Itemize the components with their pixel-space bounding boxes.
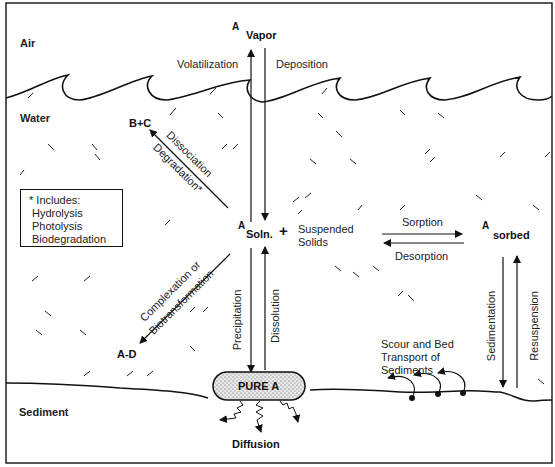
pure-a-label: PURE A [238,380,279,392]
note-title: * Includes: [29,194,122,207]
diffusion-label: Diffusion [232,438,280,450]
vapor-a-label: A [232,21,239,33]
precipitation-label: Precipitation [231,290,243,351]
suspended-solids-line2: Solids [298,236,328,248]
zone-label-sediment: Sediment [19,406,69,418]
a-d-label: A-D [117,348,137,360]
zone-label-air: Air [20,37,35,49]
suspended-solids-line1: Suspended [298,223,354,235]
resuspension-label: Resuspension [528,291,540,361]
desorption-label: Desorption [395,250,448,262]
soln-label: Soln. [246,228,273,240]
dissolution-label: Dissolution [269,289,281,343]
diffusion-arrows [220,401,298,432]
scour-label-line1: Scour and Bed [381,338,454,350]
zone-label-water: Water [20,112,50,124]
scour-label-line3: Sediments [381,364,433,376]
sorbed-label: sorbed [493,229,530,241]
volatilization-label: Volatilization [177,58,238,70]
includes-note-box: * Includes: Hydrolysis Photolysis Biodeg… [20,189,123,247]
note-item-biodegradation: Biodegradation [29,233,122,246]
water-surface-wave [6,75,552,102]
sorbed-a-label: A [482,220,489,232]
degradation-arrow [150,130,228,208]
sorption-label: Sorption [402,216,443,228]
scour-label-line2: Transport of [381,351,440,363]
note-item-hydrolysis: Hydrolysis [29,207,122,220]
deposition-label: Deposition [276,58,328,70]
sedimentation-label: Sedimentation [485,291,497,361]
soln-a-label: A [238,220,245,232]
plus-sign: + [279,225,288,237]
b-plus-c-label: B+C [129,117,151,129]
note-item-photolysis: Photolysis [29,220,122,233]
vapor-label: Vapor [246,29,277,41]
